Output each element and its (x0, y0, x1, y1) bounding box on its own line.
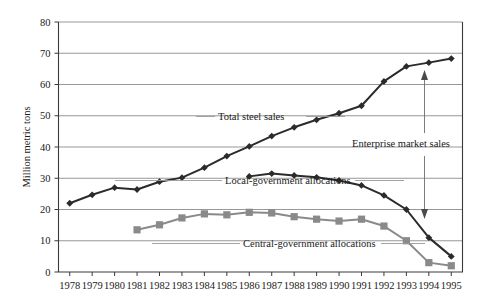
y-axis-tick-label: 80 (40, 17, 51, 28)
data-point-marker (291, 213, 298, 220)
data-point-marker (156, 221, 163, 228)
data-point-marker (178, 214, 185, 221)
label-central-government-allocations: Central-government allocations (243, 238, 376, 249)
x-axis-tick-label: 1986 (239, 280, 260, 291)
x-axis-tick-label: 1981 (127, 280, 148, 291)
y-axis-tick-labels-group: 01020304050607080 (40, 17, 51, 278)
data-point-marker (268, 209, 275, 216)
x-axis-tick-label: 1995 (441, 280, 462, 291)
data-point-marker (201, 210, 208, 217)
y-axis-tick-label: 40 (40, 142, 51, 153)
y-axis-tick-label: 70 (40, 48, 51, 59)
x-axis-tick-label: 1984 (194, 280, 216, 291)
y-axis-tick-label: 20 (40, 204, 51, 215)
x-axis-tick-label: 1978 (59, 280, 80, 291)
data-point-marker (358, 216, 365, 223)
x-axis-tick-label: 1991 (351, 280, 372, 291)
label-local-government-allocations: Local-government allocations (225, 175, 351, 186)
x-axis-tick-labels-group: 1978197919801981198219831984198519861987… (59, 280, 462, 291)
data-point-marker (133, 226, 140, 233)
x-axis-tick-label: 1989 (306, 280, 327, 291)
chart-background (0, 0, 483, 304)
x-axis-tick-label: 1988 (284, 280, 305, 291)
data-point-marker (335, 217, 342, 224)
data-point-marker (223, 211, 230, 218)
x-axis-tick-label: 1993 (396, 280, 417, 291)
y-axis-tick-label: 30 (40, 173, 51, 184)
y-axis-tick-label: 0 (45, 267, 50, 278)
x-axis-tick-label: 1979 (82, 280, 103, 291)
x-axis-tick-label: 1990 (329, 280, 350, 291)
x-axis-tick-label: 1980 (104, 280, 125, 291)
y-axis-tick-label: 50 (40, 110, 51, 121)
data-point-marker (448, 262, 455, 269)
x-axis-tick-label: 1982 (149, 280, 170, 291)
data-point-marker (313, 216, 320, 223)
label-total-steel-sales: Total steel sales (218, 111, 284, 122)
data-point-marker (380, 222, 387, 229)
line-chart-canvas: 01020304050607080 1978197919801981198219… (0, 0, 483, 304)
x-axis-tick-label: 1992 (373, 280, 394, 291)
x-axis-tick-label: 1994 (418, 280, 440, 291)
x-axis-tick-label: 1985 (216, 280, 237, 291)
x-axis-tick-label: 1983 (171, 280, 192, 291)
y-axis-tick-label: 60 (40, 79, 51, 90)
data-point-marker (425, 259, 432, 266)
label-enterprise-market-sales: Enterprise market sales (352, 138, 450, 149)
data-point-marker (246, 209, 253, 216)
y-axis-tick-label: 10 (40, 235, 51, 246)
x-axis-tick-label: 1987 (261, 280, 282, 291)
y-axis-title: Million metric tons (21, 106, 32, 187)
chart-figure: 01020304050607080 1978197919801981198219… (0, 0, 483, 304)
